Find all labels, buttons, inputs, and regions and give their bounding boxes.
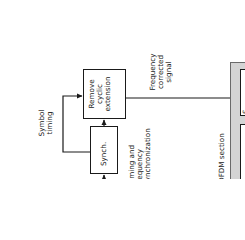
symbol-timing-label: Symbol timing — [38, 105, 54, 141]
synch-block: Synch. — [90, 126, 118, 174]
synch-label: Synch. — [100, 142, 108, 166]
remove-cyclic-extension-label: Remove cyclic extension — [88, 72, 113, 116]
ofdm-next-block — [240, 124, 245, 179]
serial-to-parallel-block: S — [240, 69, 245, 116]
synchronization-line: synchronization — [144, 128, 152, 179]
serial-block-label: S — [242, 109, 245, 114]
extension-line: extension — [104, 72, 112, 116]
timing-frequency-sync-label: Timing and frequency synchronization — [128, 128, 153, 179]
ofdm-section-label: OFDM section — [218, 133, 226, 179]
signal-line: signal — [165, 48, 173, 96]
remove-cyclic-extension-block: Remove cyclic extension — [83, 69, 126, 119]
timing-line: timing — [46, 105, 54, 141]
frequency-corrected-label: Frequency corrected signal — [149, 48, 174, 96]
